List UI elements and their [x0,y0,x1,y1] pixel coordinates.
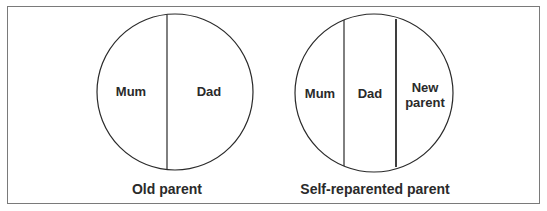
old-parent-mum-label: Mum [111,84,151,99]
self-mum-label: Mum [297,86,343,101]
new-parent-line1: New [398,80,452,95]
self-dad-label: Dad [347,86,393,101]
parent-circles-diagram [0,0,547,211]
new-parent-line2: parent [398,95,452,110]
old-parent-dad-label: Dad [189,84,229,99]
self-reparented-caption: Self-reparented parent [290,181,460,197]
self-new-parent-label: New parent [398,80,452,110]
old-parent-caption: Old parent [117,181,217,197]
